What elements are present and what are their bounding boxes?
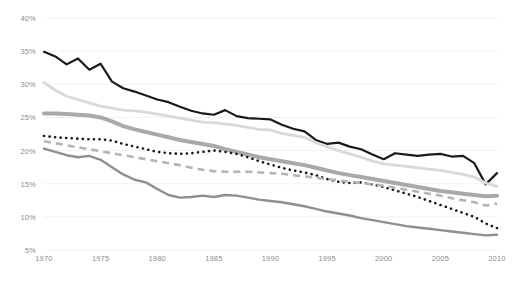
x-tick-label-1990: 1990 bbox=[251, 254, 291, 263]
x-tick-label-1975: 1975 bbox=[81, 254, 121, 263]
x-tick-label-1970: 1970 bbox=[24, 254, 64, 263]
x-tick-label-1980: 1980 bbox=[137, 254, 177, 263]
y-tick-label-35%: 35% bbox=[2, 47, 36, 56]
x-tick-label-1995: 1995 bbox=[307, 254, 347, 263]
y-tick-label-40%: 40% bbox=[2, 14, 36, 23]
y-tick-label-30%: 30% bbox=[2, 80, 36, 89]
y-tick-label-15%: 15% bbox=[2, 179, 36, 188]
y-tick-label-20%: 20% bbox=[2, 146, 36, 155]
x-tick-label-2000: 2000 bbox=[364, 254, 404, 263]
series-line-series-1-black-solid bbox=[44, 52, 497, 185]
line-chart: 40%35%30%25%20%15%10%5% 1970197519801985… bbox=[0, 0, 522, 285]
chart-plot-area bbox=[0, 0, 522, 285]
series-line-series-2-light-gray-solid bbox=[44, 82, 497, 186]
x-tick-label-2005: 2005 bbox=[420, 254, 460, 263]
x-tick-label-2010: 2010 bbox=[477, 254, 517, 263]
y-tick-label-25%: 25% bbox=[2, 113, 36, 122]
x-tick-label-1985: 1985 bbox=[194, 254, 234, 263]
y-tick-label-10%: 10% bbox=[2, 212, 36, 221]
series-line-series-6-gray-solid-lower bbox=[44, 149, 497, 236]
series-line-series-4-black-dotted bbox=[44, 136, 497, 228]
